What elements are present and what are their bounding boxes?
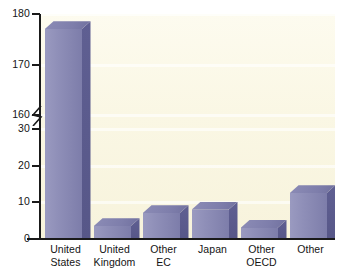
y-axis-tick-label: 0: [0, 233, 30, 243]
bar: [45, 21, 91, 239]
bar: [143, 205, 189, 239]
bar-side-face: [327, 185, 336, 239]
x-axis-label: UnitedKingdom: [90, 243, 139, 268]
bar-front-face: [290, 193, 327, 239]
x-axis-label-line: United: [90, 243, 139, 256]
x-axis-category-labels: UnitedStatesUnitedKingdomOtherECJapanOth…: [0, 243, 340, 277]
axis-break-icon: [30, 106, 44, 126]
x-axis-label-line: EC: [139, 256, 188, 269]
x-axis-label-line: United: [41, 243, 90, 256]
x-axis-label-line: Other: [237, 243, 286, 256]
y-axis-tick: [32, 128, 40, 130]
bar-chart: 0102030160170180 UnitedStatesUnitedKingd…: [0, 0, 340, 277]
y-axis-tick-label: 30: [0, 123, 30, 133]
y-axis-tick: [32, 13, 40, 15]
bar: [94, 218, 140, 239]
x-axis-label: OtherEC: [139, 243, 188, 268]
x-axis-label-line: OECD: [237, 256, 286, 269]
x-axis-label-line: States: [41, 256, 90, 269]
x-axis-label: Japan: [188, 243, 237, 256]
y-axis-tick: [32, 64, 40, 66]
y-axis-tick: [32, 165, 40, 167]
bar-front-face: [143, 213, 180, 239]
x-axis-line: [27, 238, 335, 240]
x-axis-label: OtherOECD: [237, 243, 286, 268]
x-axis-label: UnitedStates: [41, 243, 90, 268]
bar: [290, 185, 336, 239]
x-axis-label-line: Other: [286, 243, 335, 256]
x-axis-label: Other: [286, 243, 335, 256]
x-axis-label-line: Japan: [188, 243, 237, 256]
y-axis-tick-label: 20: [0, 160, 30, 170]
y-axis-tick: [32, 201, 40, 203]
bar: [192, 202, 238, 239]
bar: [241, 220, 287, 239]
gridline: [41, 14, 335, 16]
plot-area: [41, 14, 335, 239]
bar-front-face: [192, 210, 229, 239]
bar-side-face: [82, 21, 91, 239]
y-axis-tick-label: 160: [0, 109, 30, 119]
x-axis-label-line: Kingdom: [90, 256, 139, 269]
bar-front-face: [45, 29, 82, 239]
y-axis-tick: [32, 238, 40, 240]
y-axis-tick-label: 180: [0, 8, 30, 18]
y-axis-tick-labels: 0102030160170180: [0, 0, 30, 277]
y-axis-line: [39, 14, 41, 239]
y-axis-tick-label: 170: [0, 59, 30, 69]
y-axis-tick-label: 10: [0, 196, 30, 206]
x-axis-label-line: Other: [139, 243, 188, 256]
